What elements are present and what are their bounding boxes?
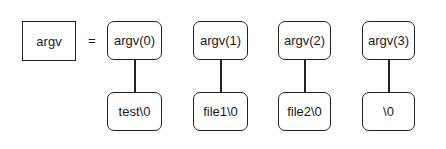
connector-2 xyxy=(304,60,306,93)
argv-element-2-label: argv(2) xyxy=(284,33,325,48)
argv-element-1-box: argv(1) xyxy=(193,21,248,60)
argv-variable-box: argv xyxy=(22,21,76,61)
argv-value-1-label: file1\0 xyxy=(203,104,238,119)
argv-element-3-label: argv(3) xyxy=(368,33,409,48)
argv-value-1-box: file1\0 xyxy=(193,92,248,131)
argv-element-2-box: argv(2) xyxy=(278,21,331,60)
connector-3 xyxy=(388,60,390,93)
connector-0 xyxy=(134,60,136,93)
argv-variable-label: argv xyxy=(36,34,61,49)
argv-value-0-label: test\0 xyxy=(119,104,151,119)
argv-value-2-box: file2\0 xyxy=(278,92,331,131)
argv-element-3-box: argv(3) xyxy=(362,21,415,60)
argv-value-3-box: \0 xyxy=(362,92,415,131)
argv-element-0-label: argv(0) xyxy=(114,33,155,48)
argv-element-0-box: argv(0) xyxy=(107,21,162,60)
argv-value-3-label: \0 xyxy=(383,104,394,119)
connector-1 xyxy=(220,60,222,93)
argv-element-1-label: argv(1) xyxy=(200,33,241,48)
argv-value-2-label: file2\0 xyxy=(287,104,322,119)
equals-sign: = xyxy=(88,33,96,48)
argv-value-0-box: test\0 xyxy=(107,92,162,131)
